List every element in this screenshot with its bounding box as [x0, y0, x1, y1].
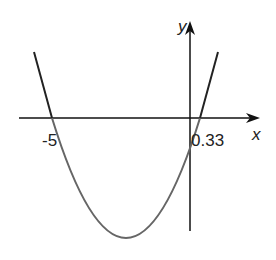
root-right-label: 0.33 [191, 131, 224, 150]
x-axis-label: x [251, 125, 261, 144]
parabola-curve-upper-left [34, 52, 52, 118]
parabola-curve-lower [52, 118, 200, 238]
root-left-label: -5 [42, 131, 57, 150]
y-axis-label: y [177, 17, 188, 36]
parabola-curve-upper-right [200, 52, 218, 118]
parabola-diagram: y x -5 0.33 [0, 0, 276, 260]
